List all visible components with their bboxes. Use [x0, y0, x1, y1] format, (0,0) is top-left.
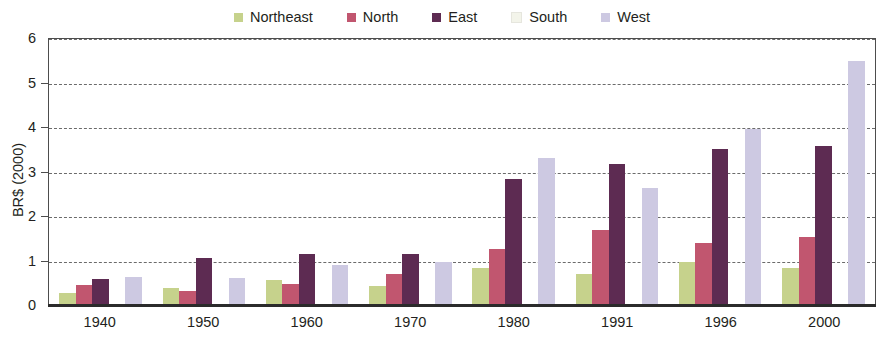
bar-north-1960[interactable] — [282, 284, 299, 304]
x-tick-label-1970: 1970 — [394, 315, 426, 330]
y-tick-mark — [41, 83, 48, 84]
chart-legend: NortheastNorthEastSouthWest — [0, 4, 884, 30]
bar-group-1980 — [462, 39, 565, 304]
bar-group-1950 — [152, 39, 255, 304]
x-tick-label-1980: 1980 — [498, 315, 530, 330]
bar-east-1960[interactable] — [299, 254, 316, 304]
bar-northeast-1940[interactable] — [59, 293, 76, 304]
legend-item-south[interactable]: South — [511, 10, 567, 25]
y-tick-mark — [41, 216, 48, 217]
legend-item-northeast[interactable]: Northeast — [234, 10, 313, 25]
bar-group-1940 — [49, 39, 152, 304]
y-tick-label: 2 — [28, 209, 36, 224]
bar-west-1970[interactable] — [435, 262, 452, 304]
x-tick-label-1940: 1940 — [84, 315, 116, 330]
bar-west-1980[interactable] — [538, 158, 555, 304]
bar-north-2000[interactable] — [799, 237, 816, 304]
bar-east-1996[interactable] — [712, 149, 729, 304]
legend-label: Northeast — [250, 10, 313, 25]
bar-west-1950[interactable] — [229, 278, 246, 304]
legend-item-north[interactable]: North — [347, 10, 398, 25]
bar-east-1940[interactable] — [92, 279, 109, 304]
y-tick-label: 3 — [28, 164, 36, 179]
legend-swatch-icon — [347, 13, 356, 22]
legend-label: West — [617, 10, 650, 25]
bar-east-1970[interactable] — [402, 254, 419, 304]
bars-layer — [49, 39, 875, 304]
legend-swatch-icon — [601, 13, 610, 22]
x-tick-label-1960: 1960 — [291, 315, 323, 330]
legend-label: East — [448, 10, 477, 25]
bar-west-1996[interactable] — [745, 129, 762, 304]
bar-north-1940[interactable] — [76, 285, 93, 304]
bar-north-1970[interactable] — [386, 274, 403, 304]
y-tick-label: 0 — [28, 298, 36, 313]
plot-area — [48, 38, 876, 305]
bar-northeast-1991[interactable] — [576, 274, 593, 304]
bar-west-1940[interactable] — [125, 277, 142, 304]
bar-northeast-1970[interactable] — [369, 286, 386, 304]
x-tick-label-1996: 1996 — [705, 315, 737, 330]
bar-group-1996 — [669, 39, 772, 304]
bar-group-1991 — [565, 39, 668, 304]
bar-west-1960[interactable] — [332, 265, 349, 304]
bar-group-2000 — [772, 39, 875, 304]
x-tick-label-1950: 1950 — [187, 315, 219, 330]
y-tick-label: 5 — [28, 75, 36, 90]
legend-item-west[interactable]: West — [601, 10, 650, 25]
bar-group-1970 — [359, 39, 462, 304]
legend-label: South — [529, 10, 567, 25]
bar-northeast-1980[interactable] — [472, 268, 489, 304]
bar-chart: NortheastNorthEastSouthWest BR$ (2000) 0… — [0, 0, 884, 337]
legend-item-east[interactable]: East — [432, 10, 477, 25]
bar-north-1996[interactable] — [695, 243, 712, 304]
bar-north-1991[interactable] — [592, 230, 609, 304]
bar-northeast-1996[interactable] — [679, 262, 696, 304]
y-tick-label: 6 — [28, 31, 36, 46]
bar-northeast-1960[interactable] — [266, 280, 283, 304]
legend-swatch-icon — [432, 13, 441, 22]
bar-group-1960 — [256, 39, 359, 304]
legend-swatch-icon — [511, 12, 522, 23]
bar-east-1950[interactable] — [196, 258, 213, 304]
y-tick-mark — [41, 261, 48, 262]
bar-northeast-1950[interactable] — [163, 288, 180, 304]
bar-north-1950[interactable] — [179, 291, 196, 304]
y-tick-label: 1 — [28, 253, 36, 268]
bar-west-2000[interactable] — [848, 61, 865, 304]
y-axis: BR$ (2000) 0123456 — [0, 38, 48, 305]
x-tick-label-1991: 1991 — [601, 315, 633, 330]
legend-label: North — [363, 10, 398, 25]
bar-north-1980[interactable] — [489, 249, 506, 304]
y-tick-mark — [41, 172, 48, 173]
bar-east-1991[interactable] — [609, 164, 626, 304]
x-tick-label-2000: 2000 — [808, 315, 840, 330]
bar-east-2000[interactable] — [815, 146, 832, 304]
y-axis-title: BR$ (2000) — [10, 110, 26, 250]
legend-swatch-icon — [234, 13, 243, 22]
bar-west-1991[interactable] — [642, 188, 659, 304]
y-tick-label: 4 — [28, 120, 36, 135]
bar-northeast-2000[interactable] — [782, 268, 799, 304]
x-axis: 19401950196019701980199119962000 — [48, 307, 876, 337]
y-tick-mark — [41, 127, 48, 128]
bar-east-1980[interactable] — [505, 179, 522, 304]
